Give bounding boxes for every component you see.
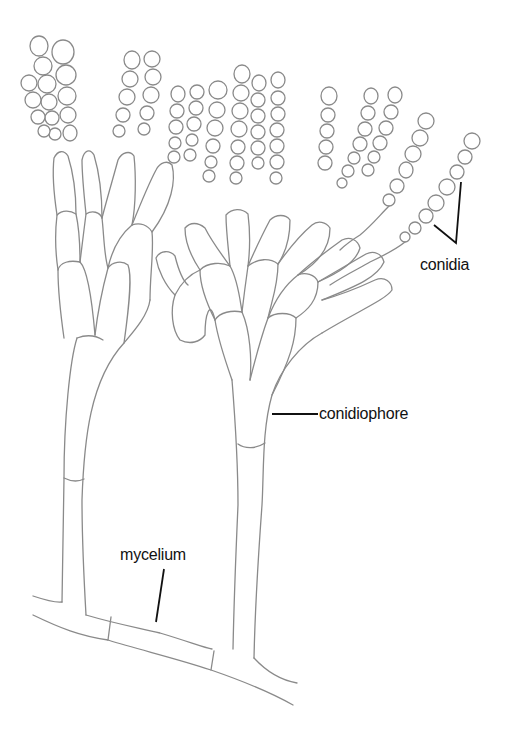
conidia-chain (203, 81, 227, 182)
leader-lines (156, 182, 461, 622)
conidia-chain (52, 40, 77, 141)
conidia-chain (318, 87, 337, 170)
mycelium-hypha (33, 596, 297, 705)
conidia-label: conidia (420, 256, 469, 274)
conidia-chain (270, 72, 285, 184)
conidia-chain (168, 86, 185, 163)
mycelium-label: mycelium (120, 546, 186, 564)
conidiophore-label: conidiophore (319, 405, 408, 423)
right-conidiophore-stalk (232, 333, 322, 658)
conidia-chain (113, 51, 140, 137)
conidia-chain (251, 75, 266, 169)
penicillium-diagram (0, 0, 507, 736)
conidia-chain (230, 65, 250, 184)
conidia-chain (138, 51, 161, 135)
left-conidiophore-stalk (62, 300, 150, 615)
conidia-chains (21, 36, 480, 285)
conidia-chain (184, 85, 204, 161)
mycelium-leader (156, 569, 164, 622)
